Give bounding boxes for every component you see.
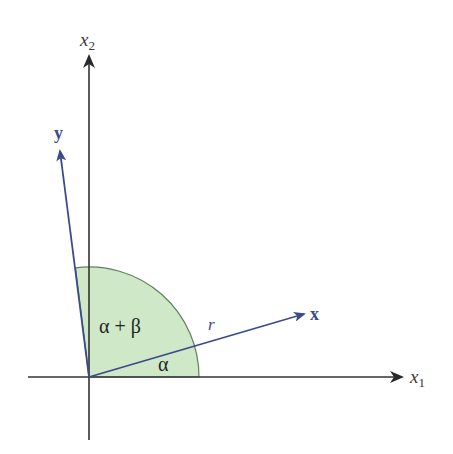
alpha-label: α — [158, 353, 169, 375]
alpha-plus-beta-label: α + β — [99, 315, 141, 338]
y-vector-label: y — [54, 123, 63, 143]
rotation-diagram: x2 x1 y x r α + β α — [0, 0, 453, 454]
x1-axis-label: x1 — [409, 366, 425, 390]
y-vector — [60, 151, 89, 377]
x-vector-label: x — [310, 304, 319, 324]
magnitude-label: r — [208, 315, 215, 334]
x2-axis-label: x2 — [79, 29, 95, 53]
